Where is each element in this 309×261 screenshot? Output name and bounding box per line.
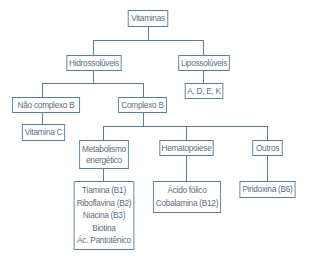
connector-line <box>143 83 144 97</box>
node-label: Não complexo B <box>18 100 75 111</box>
node-hematopoiese: Hematopoiese <box>159 140 213 156</box>
connector-line <box>143 112 144 126</box>
node-label: Vitamina C <box>25 127 63 138</box>
list-item: Biotina <box>92 222 115 235</box>
list-item: Ác. Pantotênico <box>77 234 131 247</box>
connector-line <box>148 26 149 40</box>
list-item: Niacina (B3) <box>83 209 125 222</box>
list-item: Piridoxina (B6) <box>242 184 292 195</box>
node-lipossoluveis: Lipossolúveis <box>178 55 230 71</box>
node-vitamina-c: Vitamina C <box>22 124 65 141</box>
connector-line <box>267 155 268 181</box>
node-label: Vitaminas <box>131 13 165 24</box>
node-label: Hematopoiese <box>161 143 211 154</box>
node-label: Complexo B <box>121 100 163 111</box>
node-label: A, D, E, K <box>187 86 221 97</box>
connector-line <box>103 126 104 140</box>
connector-line <box>93 40 204 41</box>
node-metabolismo-energetico: Metabolismo energético <box>79 140 129 169</box>
connector-line <box>93 40 94 55</box>
connector-line <box>103 168 104 181</box>
connector-line <box>267 126 268 140</box>
node-hematopoiese-list: Ácido fólico Cobalamina (B12) <box>153 181 221 213</box>
node-label-line: energético <box>86 155 122 166</box>
connector-line <box>93 70 94 83</box>
connector-line <box>203 40 204 55</box>
list-item: Tiamina (B1) <box>82 184 126 197</box>
node-complexo-b: Complexo B <box>118 97 167 113</box>
list-item: Riboflavina (B2) <box>77 197 131 210</box>
node-adek: A, D, E, K <box>185 83 224 99</box>
connector-line <box>42 112 43 124</box>
node-hidrossoluveis: Hidrossolúveis <box>66 55 121 71</box>
node-nao-complexo-b: Não complexo B <box>12 97 80 113</box>
list-item: Ácido fólico <box>167 184 206 197</box>
connector-line <box>186 155 187 181</box>
connector-line <box>42 83 144 84</box>
node-vitaminas: Vitaminas <box>128 10 168 27</box>
node-outros-list: Piridoxina (B6) <box>239 181 295 198</box>
list-item: Cobalamina (B12) <box>156 197 218 210</box>
node-outros: Outros <box>252 140 282 156</box>
connector-line <box>186 126 187 140</box>
connector-line <box>203 70 204 83</box>
node-label: Hidrossolúveis <box>69 58 119 69</box>
node-label: Lipossolúveis <box>181 58 227 69</box>
node-label: Outros <box>256 143 279 154</box>
connector-line <box>42 83 43 97</box>
node-metabolismo-list: Tiamina (B1) Riboflavina (B2) Niacina (B… <box>74 181 135 250</box>
node-label-line: Metabolismo <box>82 144 126 155</box>
